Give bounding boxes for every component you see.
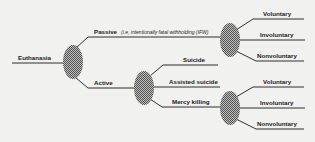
label-mercy-killing: Mercy killing xyxy=(172,99,209,105)
label-euthanasia: Euthanasia xyxy=(18,55,51,61)
label-passive-nonvoluntary: Nonvoluntary xyxy=(257,53,297,59)
label-passive-voluntary: Voluntary xyxy=(263,11,291,17)
label-mercy-voluntary: Voluntary xyxy=(263,79,291,85)
label-passive-text: Passive xyxy=(94,28,117,35)
label-mercy-nonvoluntary: Nonvoluntary xyxy=(257,121,297,127)
root-node xyxy=(63,45,83,79)
label-suicide: Suicide xyxy=(183,57,205,63)
euthanasia-tree-diagram: Euthanasia Passive(i.e, intentionally fa… xyxy=(0,0,315,142)
active-node xyxy=(134,71,154,105)
label-active: Active xyxy=(94,80,113,86)
passive-consent-node xyxy=(220,23,240,57)
label-mercy-involuntary: Involuntary xyxy=(260,100,293,106)
label-passive-involuntary: Involuntary xyxy=(260,32,293,38)
mercy-killing-consent-node xyxy=(220,91,240,125)
label-assisted-suicide: Assisted suicide xyxy=(169,79,218,85)
label-passive: Passive(i.e, intentionally fatal withhol… xyxy=(94,29,208,35)
label-passive-note: (i.e, intentionally fatal withholding (I… xyxy=(121,29,208,35)
